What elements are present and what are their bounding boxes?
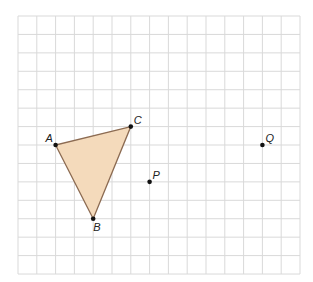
point-q-label: Q (265, 132, 274, 144)
grid-diagram: ACBPQ (0, 0, 313, 282)
point-c-dot (129, 124, 134, 129)
point-c-label: C (134, 114, 142, 126)
point-b-label: B (93, 221, 100, 233)
point-a-label: A (45, 132, 53, 144)
point-q-dot (260, 143, 265, 148)
triangle-abc (56, 127, 131, 219)
point-p-dot (147, 180, 152, 185)
point-a-dot (53, 143, 58, 148)
point-p-label: P (153, 169, 161, 181)
